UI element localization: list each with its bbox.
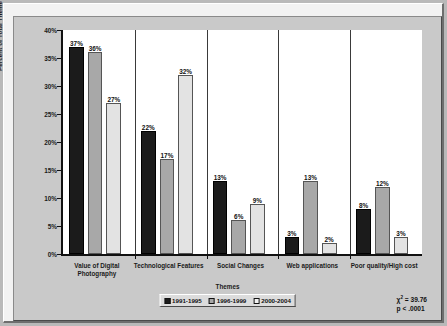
y-axis-tick-label: 25% (14, 111, 61, 118)
chart-legend: 1991-1995 1996-1999 2000-2004 (159, 294, 296, 307)
bar: 12% (375, 187, 390, 254)
bar: 8% (356, 209, 371, 254)
legend-label: 1996-1999 (217, 297, 247, 304)
y-axis-tick-label: 20% (14, 139, 61, 146)
bar: 22% (141, 131, 156, 254)
category-separator (350, 30, 351, 254)
x-axis-tick-mark (350, 254, 351, 259)
bar-value-label: 36% (89, 45, 102, 52)
legend-item: 2000-2004 (253, 297, 291, 304)
bar-value-label: 22% (142, 124, 155, 131)
bar: 2% (322, 243, 337, 254)
legend-swatch-icon (253, 298, 259, 304)
y-axis-tick-mark (57, 114, 61, 115)
bar-value-label: 3% (287, 230, 296, 237)
bar: 13% (213, 181, 228, 254)
x-axis-title: Themes (14, 283, 441, 290)
bar: 13% (303, 181, 318, 254)
y-axis-title: Percent of Total Theme Instances (0, 0, 3, 71)
chi-value: = 39.76 (405, 296, 427, 303)
p-value-line: p < .0001 (397, 304, 427, 313)
x-axis-category-label: Social Changes (205, 262, 277, 270)
category-separator (207, 30, 208, 254)
y-axis-tick-label: 10% (14, 195, 61, 202)
bar-value-label: 32% (179, 68, 192, 75)
bar-value-label: 13% (214, 174, 227, 181)
bar: 17% (160, 159, 175, 254)
y-axis-tick-label: 15% (14, 167, 61, 174)
y-axis-tick-label: 5% (14, 223, 61, 230)
legend-item: 1991-1995 (164, 297, 202, 304)
y-axis-tick-mark (57, 30, 61, 31)
y-axis-tick-mark (57, 86, 61, 87)
outer-frame: 37%36%27%22%17%32%13%6%9%3%13%2%8%12%3% … (3, 3, 444, 323)
bar: 3% (285, 237, 300, 254)
bar-value-label: 13% (304, 174, 317, 181)
y-axis-tick-mark (57, 254, 61, 255)
legend-item: 1996-1999 (209, 297, 247, 304)
bar-value-label: 27% (107, 96, 120, 103)
bar-value-label: 2% (325, 236, 334, 243)
bar: 27% (106, 103, 121, 254)
y-axis-tick-mark (57, 58, 61, 59)
legend-label: 1991-1995 (172, 297, 202, 304)
bar-value-label: 17% (161, 152, 174, 159)
category-separator (135, 30, 136, 254)
x-axis-category-label: Technological Features (133, 262, 205, 270)
bar-value-label: 12% (376, 180, 389, 187)
y-axis-tick-mark (57, 226, 61, 227)
bar: 36% (88, 52, 103, 254)
x-axis-tick-mark (207, 254, 208, 259)
plot-inner: 37%36%27%22%17%32%13%6%9%3%13%2%8%12%3% (63, 30, 422, 254)
chart-panel: 37%36%27%22%17%32%13%6%9%3%13%2%8%12%3% … (13, 16, 442, 321)
chart-screenshot: 37%36%27%22%17%32%13%6%9%3%13%2%8%12%3% … (0, 0, 447, 326)
x-axis-category-label: Poor quality/High cost (348, 262, 420, 270)
bar: 3% (394, 237, 409, 254)
x-axis-category-label: Web applications (276, 262, 348, 270)
plot-area: 37%36%27%22%17%32%13%6%9%3%13%2%8%12%3% (61, 30, 422, 256)
y-axis-tick-mark (57, 198, 61, 199)
bar-value-label: 8% (359, 202, 368, 209)
chi-exponent: 2 (400, 295, 403, 300)
x-axis-tick-mark (278, 254, 279, 259)
x-axis-tick-mark (135, 254, 136, 259)
bar: 6% (231, 220, 246, 254)
x-axis-category-label: Value of Digital Photography (61, 262, 133, 278)
statistics-annotation: χ2 = 39.76 p < .0001 (397, 293, 427, 313)
bar: 37% (69, 47, 84, 254)
y-axis-tick-label: 35% (14, 55, 61, 62)
y-axis-tick-mark (57, 142, 61, 143)
bar-value-label: 3% (396, 230, 405, 237)
bar-value-label: 6% (234, 213, 243, 220)
bar: 32% (178, 75, 193, 254)
legend-swatch-icon (209, 298, 215, 304)
y-axis-tick-label: 0% (14, 251, 61, 258)
category-separator (278, 30, 279, 254)
y-axis-tick-label: 30% (14, 83, 61, 90)
chi-square-line: χ2 = 39.76 (397, 293, 427, 304)
legend-label: 2000-2004 (261, 297, 291, 304)
bar: 9% (250, 204, 265, 254)
bar-value-label: 37% (70, 40, 83, 47)
legend-swatch-icon (164, 298, 170, 304)
y-axis-tick-mark (57, 170, 61, 171)
bar-value-label: 9% (253, 197, 262, 204)
y-axis-tick-label: 40% (14, 27, 61, 34)
